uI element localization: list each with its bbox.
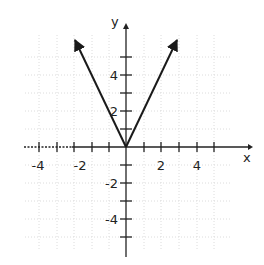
x-tick-label: -4 — [32, 158, 45, 173]
y-tick-label: 2 — [110, 104, 118, 119]
y-tick-label: -2 — [105, 176, 118, 191]
x-tick-label: 4 — [193, 158, 201, 173]
y-tick-label: 4 — [110, 68, 118, 83]
coordinate-plane: y x -4 -2 2 4 4 2 -2 -4 — [0, 0, 264, 265]
y-axis-label: y — [111, 14, 119, 29]
x-axis-label: x — [243, 150, 251, 165]
x-tick-label: 2 — [157, 158, 165, 173]
y-tick-label: -4 — [105, 212, 118, 227]
x-tick-label: -2 — [74, 158, 87, 173]
x-axis — [24, 142, 253, 152]
y-axis-arrow-icon — [123, 23, 129, 29]
